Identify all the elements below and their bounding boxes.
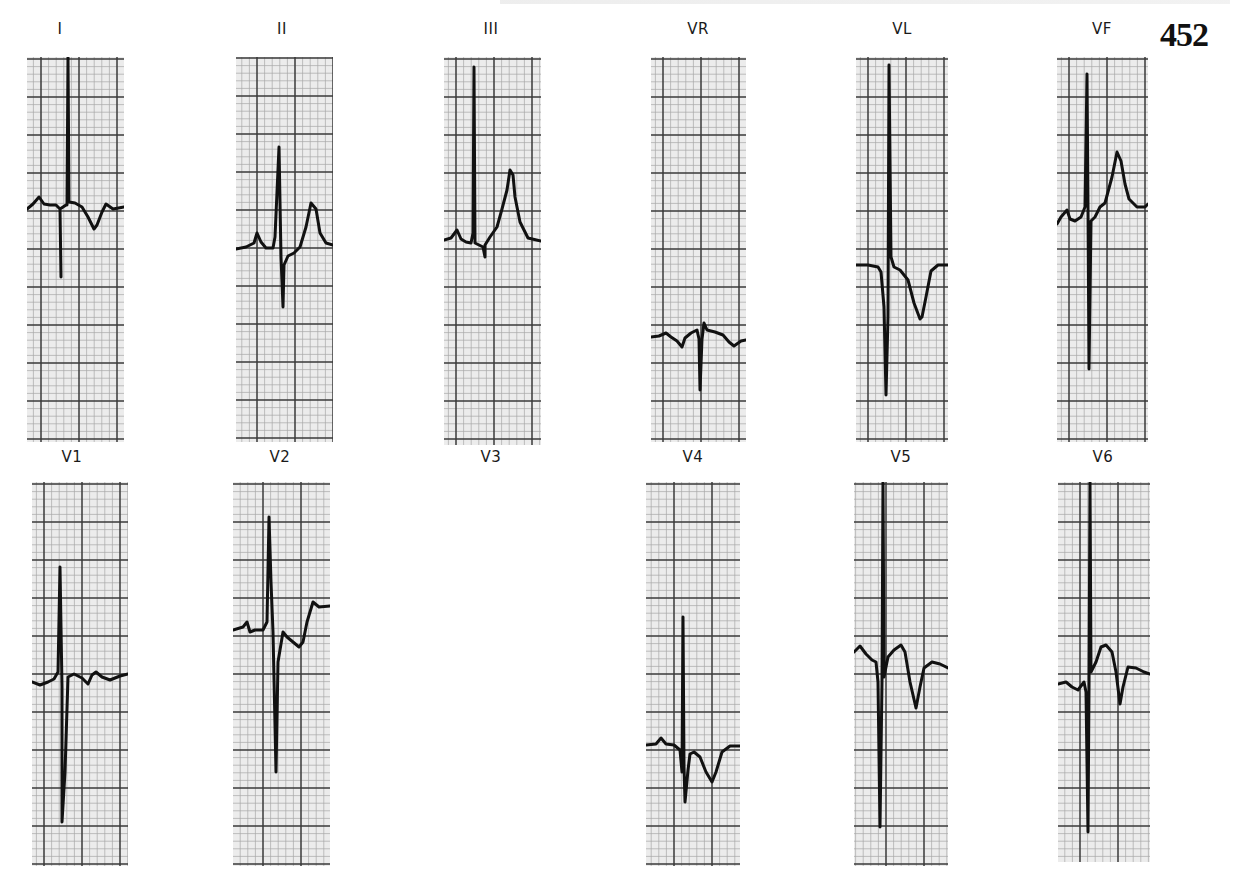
ecg-strip-ii (236, 57, 333, 442)
ecg-strip-iii (444, 57, 541, 445)
ecg-strip-v4 (646, 482, 740, 866)
cropped-running-header (500, 0, 1230, 4)
lead-label-v4: V4 (683, 448, 704, 466)
lead-label-v1: V1 (62, 448, 83, 466)
ecg-strip-vr (651, 57, 746, 442)
lead-label-i: I (58, 20, 63, 38)
ecg-strip-v6 (1058, 482, 1150, 862)
lead-label-vl: VL (892, 20, 912, 38)
ecg-strip-vf (1057, 57, 1148, 442)
lead-label-v2: V2 (270, 448, 291, 466)
lead-label-v6: V6 (1093, 448, 1114, 466)
lead-label-vr: VR (687, 20, 709, 38)
ecg-strip-v5 (854, 482, 948, 866)
lead-label-vf: VF (1092, 20, 1112, 38)
ecg-strip-i (27, 57, 124, 442)
lead-label-iii: III (484, 20, 499, 38)
ecg-strip-v2 (233, 482, 330, 866)
lead-label-v5: V5 (891, 448, 912, 466)
ecg-strip-v1 (32, 482, 128, 866)
page-number: 452 (1160, 16, 1208, 54)
lead-label-v3: V3 (481, 448, 502, 466)
ecg-strip-vl (856, 57, 948, 442)
lead-label-ii: II (277, 20, 287, 38)
